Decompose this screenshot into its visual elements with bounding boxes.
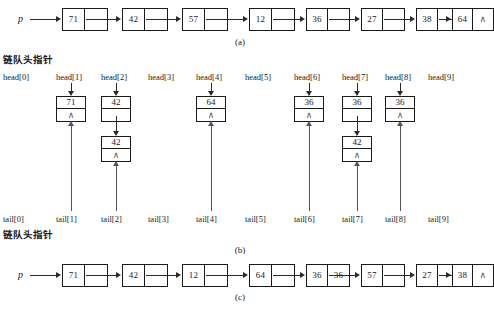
tail-link-4 [211,124,212,211]
link-arrow [116,272,121,278]
head-label-1: head[1] [56,72,82,82]
tail-link-2 [116,164,117,211]
tail-arrow-4 [208,121,214,126]
link-arrow [243,16,248,22]
node-value: 42 [102,137,130,149]
node-value: 12 [183,265,205,286]
node-nil: ∧ [295,109,323,121]
panel-c-pointer-label: p [18,269,23,280]
bucket-node: 64 ∧ [196,96,226,122]
node-value: 57 [183,9,205,30]
bucket-node: 42 ∧ [342,136,372,162]
tail-arrow-7 [354,161,360,166]
bucket-node: 36 ∧ [294,96,324,122]
node-nil: ∧ [473,265,493,286]
bucket-node: 71 ∧ [56,96,86,122]
tail-arrow-6 [306,121,312,126]
link-arrow [446,272,451,278]
node-value: 71 [63,9,85,30]
node-value: 27 [417,265,438,286]
link-arrow [410,16,415,22]
tail-label-7: tail[7] [342,214,363,224]
pointer-arrow-c [56,272,61,278]
node-value: 38 [417,9,438,30]
pointer-line-a [30,19,57,20]
bucket-node: 42 ∧ [101,136,131,162]
link-arrow [176,16,181,22]
node-value: 36 [295,97,323,109]
link-line [206,19,244,20]
link-arrow [116,16,121,22]
node-value: 36 [343,97,371,109]
node-value: 27 [362,9,383,30]
head-label-5: head[5] [245,72,271,82]
list-node-tail: 38 ∧ [452,264,494,287]
link-line [206,275,244,276]
link-line [86,275,117,276]
node-value: 38 [453,265,473,286]
caption-b: (b) [220,245,260,255]
link-line [146,19,177,20]
node-value: 36 [307,9,328,30]
link-line [273,275,301,276]
node-value: 42 [102,97,130,109]
node-value: 42 [343,137,371,149]
caption-c: (c) [220,292,260,302]
head-pointer-label-cn: 链队头指针 [3,52,53,66]
tail-arrow-8 [397,121,403,126]
tail-link-8 [400,124,401,211]
tail-label-8: tail[8] [385,214,406,224]
panel-a-pointer-label: p [18,13,23,24]
head-label-7: head[7] [342,72,368,82]
link-line [86,19,117,20]
tail-label-6: tail[6] [294,214,315,224]
head-label-9: head[9] [428,72,454,82]
pointer-arrow-a [56,16,61,22]
tail-link-1 [71,124,72,211]
head-label-8: head[8] [385,72,411,82]
caption-a: (a) [220,37,260,47]
link-arrow [355,272,360,278]
tail-label-2: tail[2] [101,214,122,224]
link-line [273,19,301,20]
node-value: 42 [123,9,145,30]
tail-label-4: tail[4] [196,214,217,224]
tail-label-3: tail[3] [148,214,169,224]
node-value: 71 [57,97,85,109]
link-line [329,275,356,276]
node-value: 64 [250,265,272,286]
node-nil: ∧ [102,149,130,161]
tail-link-7 [357,164,358,211]
node-value: 64 [453,9,473,30]
node-value: 36 [386,97,414,109]
node-nil: ∧ [343,149,371,161]
tail-label-0: tail[0] [3,214,24,224]
node-nil: ∧ [57,109,85,121]
node-value: 42 [123,265,145,286]
bucket-node: 36 ∧ [385,96,415,122]
list-node-tail: 64 ∧ [452,8,494,31]
pointer-line-c [30,275,57,276]
tail-label-1: tail[1] [56,214,77,224]
head-label-4: head[4] [196,72,222,82]
node-nil: ∧ [473,9,493,30]
link-arrow [410,272,415,278]
link-arrow [300,16,305,22]
node-value: 12 [250,9,272,30]
tail-pointer-label-cn: 链队头指针 [3,227,53,241]
node-value: 64 [197,97,225,109]
head-label-6: head[6] [294,72,320,82]
link-arrow [446,16,451,22]
link-line [329,19,356,20]
head-label-0: head[0] [3,72,29,82]
node-value: 36 [307,265,328,286]
link-line [384,275,411,276]
tail-label-9: tail[9] [428,214,449,224]
node-value: 71 [63,265,85,286]
tail-link-6 [309,124,310,211]
link-arrow [176,272,181,278]
head-label-3: head[3] [148,72,174,82]
link-arrow [243,272,248,278]
link-arrow [300,272,305,278]
tail-arrow-1 [68,121,74,126]
